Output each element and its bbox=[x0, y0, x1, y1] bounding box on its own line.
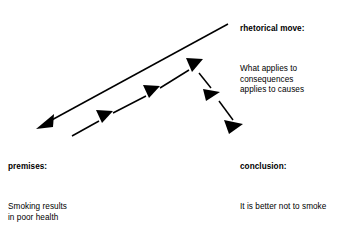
rhetorical-move-body-line-3: applies to causes bbox=[240, 85, 304, 94]
rhetorical-move-heading: rhetorical move: bbox=[240, 24, 305, 35]
premises-heading: premises: bbox=[8, 162, 67, 173]
chain-segment-5-head bbox=[224, 120, 243, 134]
main-arrow bbox=[36, 24, 228, 129]
chain-segment-3 bbox=[160, 58, 203, 88]
conclusion-body-line-1: It is better not to smoke bbox=[240, 202, 326, 211]
rhetorical-move-block: rhetorical move: What applies to consequ… bbox=[240, 3, 305, 117]
rhetorical-move-body: What applies to consequences applies to … bbox=[240, 64, 305, 96]
chain-segment-4-shaft bbox=[199, 73, 211, 88]
premises-body-first: Smoking results in poor health bbox=[8, 202, 67, 223]
rhetorical-move-body-line-2: consequences bbox=[240, 75, 293, 84]
chain-segment-3-shaft bbox=[160, 70, 189, 88]
chain-segment-2 bbox=[113, 85, 160, 113]
chain-segment-4 bbox=[199, 73, 220, 101]
chain-segment-1-shaft bbox=[72, 121, 99, 136]
main-arrow-shaft bbox=[48, 24, 228, 122]
conclusion-body: It is better not to smoke bbox=[240, 202, 326, 213]
chain-segment-1 bbox=[72, 110, 113, 136]
main-arrow-head bbox=[36, 114, 54, 129]
premises-body-1-line-2: in poor health bbox=[8, 213, 58, 222]
chain-segment-2-shaft bbox=[113, 96, 146, 113]
diagram-canvas: rhetorical move: What applies to consequ… bbox=[0, 0, 344, 231]
conclusion-block: conclusion: It is better not to smoke bbox=[240, 141, 326, 231]
premises-body-1-line-1: Smoking results bbox=[8, 202, 67, 211]
premises-block: premises: Smoking results in poor health… bbox=[8, 141, 67, 231]
chain-segment-5-shaft bbox=[219, 101, 233, 120]
conclusion-heading: conclusion: bbox=[240, 162, 326, 173]
chain-segment-4-head bbox=[203, 89, 220, 101]
rhetorical-move-body-line-1: What applies to bbox=[240, 64, 297, 73]
